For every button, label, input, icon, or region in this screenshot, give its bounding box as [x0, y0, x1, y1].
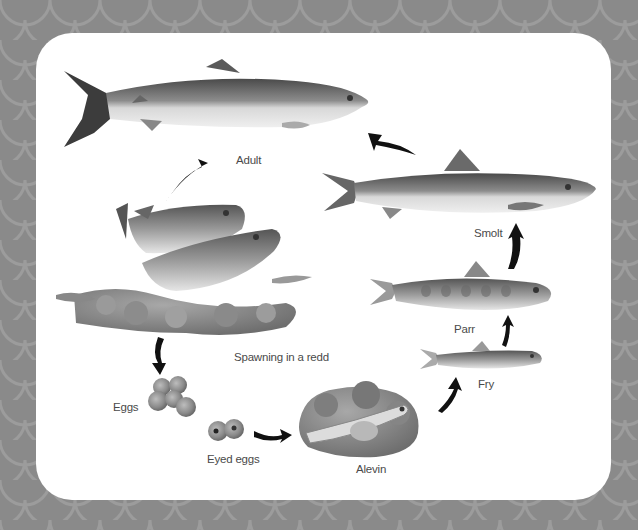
stage-label-adult: Adult: [236, 154, 261, 166]
arrow-fry-to-parr: [502, 315, 514, 347]
stage-label-eyed-eggs: Eyed eggs: [207, 453, 260, 465]
stage-label-smolt: Smolt: [474, 227, 502, 239]
smolt-illustration: [322, 149, 596, 219]
arrow-adult-to-spawning: [166, 159, 208, 201]
stage-label-spawning: Spawning in a redd: [234, 351, 329, 363]
fry-illustration: [420, 341, 542, 369]
stage-label-parr: Parr: [454, 323, 475, 335]
arrow-spawning-to-eggs: [152, 337, 166, 375]
parr-illustration: [370, 261, 551, 310]
stage-label-alevin: Alevin: [356, 463, 386, 475]
arrow-alevin-to-fry: [438, 377, 462, 413]
arrow-parr-to-smolt: [508, 223, 524, 269]
life-cycle-panel: Adult Spawning in a redd Eggs Eyed eggs …: [36, 33, 611, 500]
arrow-smolt-to-adult: [368, 133, 416, 155]
life-cycle-illustration: [36, 33, 611, 500]
alevin-illustration: [299, 381, 419, 457]
stage-label-fry: Fry: [478, 378, 494, 390]
arrow-eyed-eggs-to-alevin: [254, 429, 292, 443]
adult-salmon-illustration: [64, 59, 368, 147]
eggs-illustration: [148, 376, 196, 417]
eyed-eggs-illustration: [208, 419, 244, 441]
stage-label-eggs: Eggs: [113, 401, 138, 413]
spawning-salmon-illustration: [56, 203, 312, 335]
